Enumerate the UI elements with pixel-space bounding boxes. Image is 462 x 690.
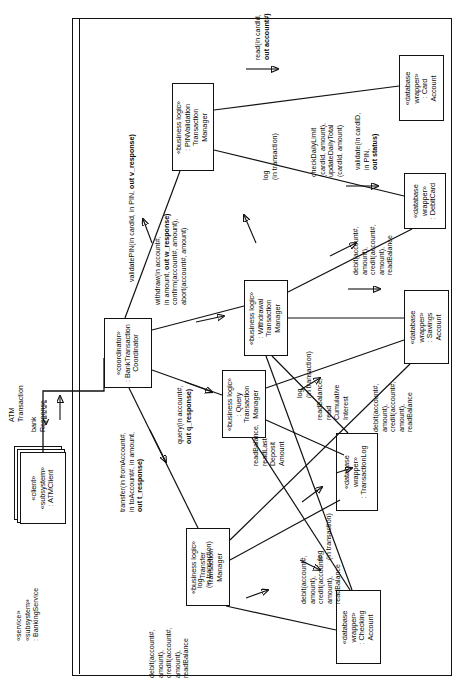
dc4-line-5: readBalance	[182, 628, 191, 678]
dc2-line-3: credit(account#,	[389, 382, 398, 432]
withdraw-line-2-bold: out w_response)	[163, 214, 171, 270]
dc3-line-2: amount),	[309, 554, 318, 604]
connector-lines	[0, 0, 462, 690]
bank-response-line-2: Response	[39, 400, 48, 432]
dc3-line-4: amount),	[326, 554, 335, 604]
dc3-line-3: credit(account#,	[317, 554, 326, 604]
label-withdraw: withdraw(in account#, in amount, out w_r…	[154, 214, 188, 305]
label-read-balance-last-deposit: readBalance, readLast Deposit Amount	[252, 424, 286, 466]
dc1-line-2: amount),	[361, 225, 370, 275]
log-q-line-2: (in transaction)	[305, 351, 314, 398]
label-debit-credit-savings: debit(account#, amount), credit(account#…	[372, 382, 415, 432]
validate-pin-bold: out v_response)	[128, 134, 136, 189]
withdraw-line-3: confirm(account#, amount),	[171, 214, 180, 305]
label-check-daily-limit: checkDailyLimit (cardId, amount), update…	[310, 123, 344, 177]
label-debit-credit-checking-1: debit(account#, amount), credit(account#…	[300, 554, 343, 604]
dc1-line-3: credit(account#,	[369, 225, 378, 275]
rbl-line-2: readLast	[261, 424, 270, 466]
label-log-withdrawal: log (in transaction)	[262, 133, 279, 180]
dc4-line-3: credit(account#,	[165, 628, 174, 678]
check-daily-line-3: updateDailyTotal	[327, 123, 336, 177]
label-bank-response: bank Response	[30, 400, 47, 432]
validate-pin-plain: validatePIN(in cardId, in PIN,	[128, 189, 136, 282]
withdraw-line-4: abort(account#, amount)	[180, 214, 189, 305]
dc1-line-5: readBalance	[386, 225, 395, 275]
label-debit-credit-debitcard: debit(account#, amount), credit(account#…	[352, 225, 395, 275]
transfer-line-3: out t_response)	[136, 432, 145, 512]
label-read-balance-cumulative: readBalance, read Cumulative Interest	[316, 378, 350, 420]
dc1-line-4: amount),	[378, 225, 387, 275]
dc3-line-5: readBalance	[334, 554, 343, 604]
dc2-line-1: debit(account#,	[372, 382, 381, 432]
log-w-line-1: log	[262, 133, 271, 180]
query-line-2: out q_response)	[185, 386, 194, 444]
validate-card-line-3: out status)	[371, 113, 380, 170]
atm-transaction-line-2: Transaction	[17, 385, 26, 422]
rbl-line-1: readBalance,	[252, 424, 261, 466]
transfer-line-2: in toAccount#, in amount,	[128, 432, 137, 512]
dc2-line-4: amount),	[398, 382, 407, 432]
dc4-line-4: amount),	[174, 628, 183, 678]
link-withdrawal-savingsaccount	[288, 289, 404, 318]
bank-response-line-1: bank	[30, 400, 39, 432]
link-atmclient-coordinator	[43, 358, 104, 452]
dc3-line-1: debit(account#,	[300, 554, 309, 604]
validate-card-line-2: in PIN,	[363, 113, 372, 170]
label-validate-pin: validatePIN(in cardId, in PIN, out v_res…	[128, 134, 137, 282]
label-transfer: transfer(in fromAccount#, in toAccount#,…	[119, 432, 145, 512]
validate-card-line-1: validate(in cardID,	[354, 113, 363, 170]
withdraw-line-2-plain: in amount,	[163, 270, 171, 305]
label-query: query(in account#, out q_response)	[176, 386, 193, 444]
atm-transaction-line-1: ATM	[8, 385, 17, 422]
rbl-line-4: Amount	[278, 424, 287, 466]
read-card-line-2: out account#)	[263, 13, 272, 60]
withdraw-line-1: withdraw(in account#,	[154, 214, 163, 305]
dc2-line-5: readBalance	[406, 382, 415, 432]
query-line-1: query(in account#,	[176, 386, 185, 444]
read-card-line-1: read(in cardId,	[254, 13, 263, 60]
rbc-line-4: Interest	[342, 378, 351, 420]
dc4-line-1: debit(account#,	[148, 628, 157, 678]
transfer-line-1: transfer(in fromAccount#,	[119, 432, 128, 512]
rbc-line-2: read	[325, 378, 334, 420]
rbc-line-3: Cumulative	[333, 378, 342, 420]
diagram-canvas: «service» «subsystem» : BankingService «…	[0, 0, 462, 690]
link-coordinator-withdrawal	[152, 306, 244, 330]
rbc-line-1: readBalance,	[316, 378, 325, 420]
log-q-line-1: log	[296, 351, 305, 398]
label-debit-credit-checking-2: debit(account#, amount), credit(account#…	[148, 628, 191, 678]
rbl-line-3: Deposit	[269, 424, 278, 466]
label-log-query: log (in transaction)	[296, 351, 313, 398]
dc2-line-2: amount),	[381, 382, 390, 432]
dc1-line-1: debit(account#,	[352, 225, 361, 275]
log-t2-line-2: (in transaction)	[205, 541, 214, 588]
log-w-line-2: (in transaction)	[271, 133, 280, 180]
label-log-transfer-2: log (in transaction)	[196, 541, 213, 588]
label-validate-card: validate(in cardID, in PIN, out status)	[354, 113, 380, 170]
link-pinvalidation-cardaccount	[214, 69, 399, 110]
log-t2-line-1: log	[196, 541, 205, 588]
check-daily-line-4: (cardId, amount)	[336, 123, 345, 177]
check-daily-line-2: (cardId, amount),	[319, 123, 328, 177]
label-atm-transaction: ATM Transaction	[8, 385, 25, 422]
dc4-line-2: amount),	[157, 628, 166, 678]
check-daily-line-1: checkDailyLimit	[310, 123, 319, 177]
label-read-card: read(in cardId, out account#)	[254, 13, 271, 60]
